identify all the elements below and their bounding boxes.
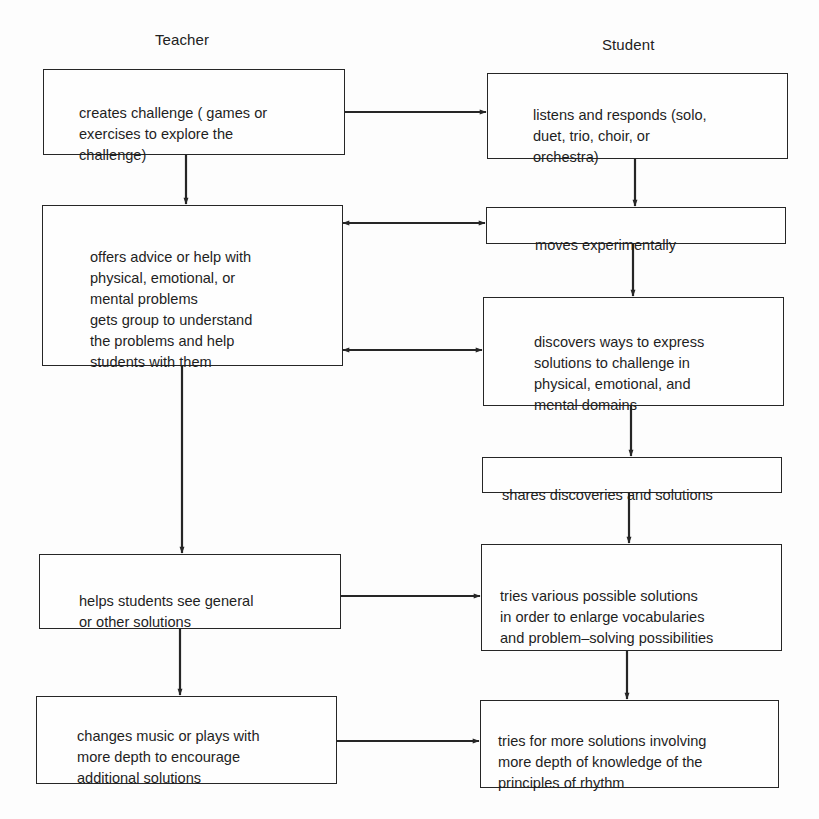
step-text: shares discoveries and solutions: [502, 485, 781, 506]
student-step-discover-ways: discovers ways to express solutions to c…: [483, 297, 784, 406]
step-text: tries for more solutions involving more …: [498, 731, 778, 794]
teacher-step-general-solutions: helps students see general or other solu…: [39, 554, 341, 629]
step-text: listens and responds (solo, duet, trio, …: [533, 105, 787, 168]
student-step-try-solutions: tries various possible solutions in orde…: [481, 544, 782, 651]
teacher-step-create-challenge: creates challenge ( games or exercises t…: [43, 69, 345, 155]
teacher-step-offer-advice: offers advice or help with physical, emo…: [42, 205, 343, 366]
step-text: discovers ways to express solutions to c…: [534, 332, 783, 416]
step-text: moves experimentally: [535, 235, 785, 256]
student-step-share-discoveries: shares discoveries and solutions: [482, 457, 782, 493]
step-text: changes music or plays with more depth t…: [77, 726, 336, 789]
step-text: creates challenge ( games or exercises t…: [79, 103, 344, 166]
teacher-column-label: Teacher: [155, 31, 209, 48]
step-text: tries various possible solutions in orde…: [500, 586, 781, 649]
teacher-step-change-music: changes music or plays with more depth t…: [36, 696, 337, 784]
student-step-move-experimentally: moves experimentally: [486, 207, 786, 244]
step-text: helps students see general or other solu…: [79, 591, 340, 633]
student-step-listen-respond: listens and responds (solo, duet, trio, …: [487, 73, 788, 159]
student-step-more-depth: tries for more solutions involving more …: [480, 700, 779, 788]
student-column-label: Student: [602, 36, 654, 53]
step-text: offers advice or help with physical, emo…: [90, 247, 342, 373]
